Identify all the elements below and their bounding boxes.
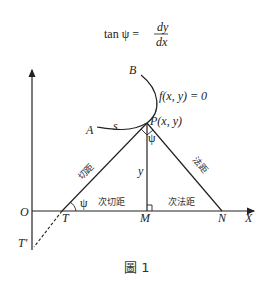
label-n: N bbox=[217, 211, 227, 225]
label-t: T bbox=[62, 211, 70, 225]
formula: tan ψ = dy dx bbox=[104, 20, 169, 49]
label-x: X bbox=[244, 211, 253, 225]
label-normal: 法距 bbox=[190, 154, 210, 175]
label-s: s bbox=[113, 119, 118, 133]
formula-denominator: dx bbox=[156, 35, 168, 49]
angle-arc-t bbox=[70, 202, 76, 211]
formula-lhs: tan ψ = bbox=[104, 27, 139, 41]
label-subtangent: 次切距 bbox=[98, 196, 125, 207]
label-a: A bbox=[85, 123, 94, 137]
label-curve: f(x, y) = 0 bbox=[159, 89, 207, 103]
label-t-prime: T' bbox=[18, 236, 28, 250]
label-b: B bbox=[129, 63, 137, 77]
label-m: M bbox=[139, 211, 151, 225]
label-subnormal: 次法距 bbox=[168, 196, 195, 207]
tangent-normal-diagram: tan ψ = dy dx B f(x, y) = 0 P(x, y) A s … bbox=[0, 0, 266, 291]
label-o: O bbox=[20, 205, 29, 219]
label-psi-top: ψ bbox=[148, 131, 156, 145]
label-psi-bottom: ψ bbox=[80, 196, 88, 210]
figure-caption: 圖 1 bbox=[124, 260, 149, 275]
tangent-extension bbox=[34, 211, 62, 247]
label-y: y bbox=[137, 164, 144, 178]
label-p: P(x, y) bbox=[149, 114, 182, 128]
curve bbox=[97, 75, 157, 130]
formula-numerator: dy bbox=[157, 20, 169, 34]
